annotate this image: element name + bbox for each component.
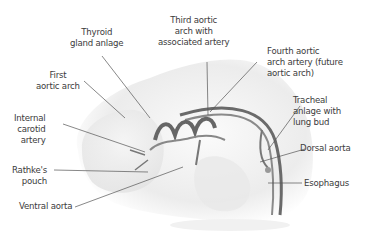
label-first-aortic-arch: First aortic arch — [36, 70, 80, 92]
label-thyroid-gland-anlage: Thyroid gland anlage — [70, 27, 123, 49]
label-rathkes-pouch: Rathke's pouch — [12, 165, 47, 187]
label-dorsal-aorta: Dorsal aorta — [300, 143, 351, 154]
label-tracheal-anlage: Tracheal anlage with lung bud — [293, 95, 341, 128]
label-third-aortic-arch: Third aortic arch with associated artery — [158, 15, 229, 48]
label-fourth-aortic-arch: Fourth aortic arch artery (future aortic… — [267, 46, 343, 79]
label-internal-carotid-artery: Internal carotid artery — [14, 113, 46, 146]
label-esophagus: Esophagus — [304, 178, 349, 189]
diagram: Thyroid gland anlage Third aortic arch w… — [0, 0, 366, 236]
label-ventral-aorta: Ventral aorta — [19, 201, 72, 212]
